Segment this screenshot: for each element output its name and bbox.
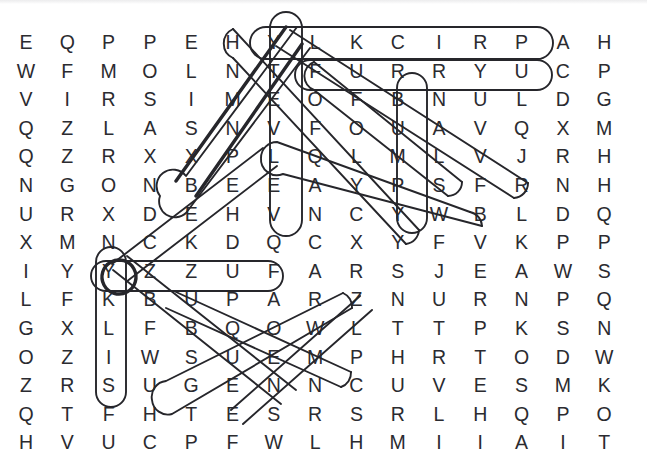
- grid-letter: V: [463, 113, 497, 143]
- grid-letter: E: [216, 170, 250, 200]
- grid-letter: K: [587, 370, 621, 400]
- grid-letter: L: [92, 113, 126, 143]
- grid-letter: E: [257, 342, 291, 372]
- grid-letter: O: [92, 170, 126, 200]
- grid-letter: Q: [216, 313, 250, 343]
- grid-letter: I: [422, 27, 456, 57]
- grid-letter: C: [546, 56, 580, 86]
- grid-letter: Q: [587, 284, 621, 314]
- grid-letter: R: [92, 141, 126, 171]
- word-search-puzzle: EQPPEHYLKCIRPAHWFMOLNTFURRYUCPVIRSIMEOFB…: [0, 0, 647, 470]
- grid-letter: I: [546, 427, 580, 457]
- grid-letter: G: [50, 170, 84, 200]
- grid-letter: C: [133, 427, 167, 457]
- grid-letter: V: [257, 113, 291, 143]
- grid-letter: X: [50, 313, 84, 343]
- grid-letter: E: [257, 84, 291, 114]
- grid-letter: F: [257, 256, 291, 286]
- grid-letter: R: [422, 56, 456, 86]
- grid-letter: R: [381, 399, 415, 429]
- grid-letter: K: [92, 284, 126, 314]
- grid-letter: L: [422, 399, 456, 429]
- grid-letter: R: [422, 342, 456, 372]
- grid-letter: E: [174, 199, 208, 229]
- grid-letter: F: [50, 56, 84, 86]
- grid-letter: R: [298, 284, 332, 314]
- grid-letter: U: [9, 199, 43, 229]
- grid-letter: Q: [505, 113, 539, 143]
- grid-letter: R: [463, 284, 497, 314]
- grid-letter: P: [546, 399, 580, 429]
- grid-letter: P: [505, 27, 539, 57]
- grid-letter: B: [133, 284, 167, 314]
- grid-letter: R: [505, 170, 539, 200]
- grid-letter: V: [463, 227, 497, 257]
- grid-letter: Q: [587, 199, 621, 229]
- grid-letter: C: [339, 199, 373, 229]
- grid-letter: A: [505, 427, 539, 457]
- grid-letter: B: [463, 199, 497, 229]
- grid-letter: T: [50, 399, 84, 429]
- grid-letter: Q: [505, 399, 539, 429]
- grid-letter: M: [381, 141, 415, 171]
- grid-letter: I: [422, 427, 456, 457]
- grid-letter: F: [216, 427, 250, 457]
- grid-letter: L: [92, 313, 126, 343]
- grid-letter: O: [587, 399, 621, 429]
- grid-letter: P: [587, 56, 621, 86]
- grid-letter: S: [339, 399, 373, 429]
- grid-letter: A: [298, 170, 332, 200]
- grid-letter: W: [298, 313, 332, 343]
- grid-letter: L: [174, 56, 208, 86]
- grid-letter: X: [174, 141, 208, 171]
- grid-letter: W: [133, 342, 167, 372]
- grid-letter: M: [50, 227, 84, 257]
- grid-letter: F: [422, 227, 456, 257]
- grid-letter: Y: [381, 227, 415, 257]
- grid-letter: H: [587, 27, 621, 57]
- grid-letter: H: [463, 399, 497, 429]
- grid-letter: N: [92, 227, 126, 257]
- grid-letter: W: [587, 342, 621, 372]
- grid-letter: E: [463, 256, 497, 286]
- grid-letter: B: [381, 84, 415, 114]
- grid-letter: S: [381, 256, 415, 286]
- grid-letter: O: [133, 56, 167, 86]
- grid-letter: S: [546, 313, 580, 343]
- grid-letter: Z: [133, 256, 167, 286]
- grid-letter: E: [174, 27, 208, 57]
- grid-letter: L: [505, 199, 539, 229]
- grid-letter: N: [546, 170, 580, 200]
- grid-letter: M: [92, 56, 126, 86]
- grid-letter: L: [257, 141, 291, 171]
- grid-letter: A: [298, 256, 332, 286]
- grid-letter: K: [505, 227, 539, 257]
- grid-letter: A: [422, 113, 456, 143]
- grid-letter: D: [546, 199, 580, 229]
- grid-letter: U: [174, 284, 208, 314]
- grid-letter: N: [505, 284, 539, 314]
- grid-letter: H: [9, 427, 43, 457]
- grid-letter: E: [9, 27, 43, 57]
- grid-letter: R: [463, 27, 497, 57]
- grid-letter: D: [216, 227, 250, 257]
- grid-letter: X: [9, 227, 43, 257]
- grid-letter: Q: [257, 227, 291, 257]
- grid-letter: W: [9, 56, 43, 86]
- grid-letter: I: [463, 427, 497, 457]
- grid-letter: Y: [463, 56, 497, 86]
- grid-letter: L: [505, 84, 539, 114]
- grid-letter: M: [298, 342, 332, 372]
- letter-grid: EQPPEHYLKCIRPAHWFMOLNTFURRYUCPVIRSIMEOFB…: [0, 0, 647, 470]
- grid-letter: T: [463, 342, 497, 372]
- grid-letter: S: [133, 84, 167, 114]
- grid-letter: U: [216, 342, 250, 372]
- grid-letter: L: [339, 313, 373, 343]
- grid-letter: S: [92, 370, 126, 400]
- grid-letter: Q: [50, 27, 84, 57]
- grid-letter: C: [339, 370, 373, 400]
- grid-letter: L: [298, 427, 332, 457]
- grid-letter: Q: [9, 141, 43, 171]
- grid-letter: G: [174, 370, 208, 400]
- grid-letter: Y: [339, 170, 373, 200]
